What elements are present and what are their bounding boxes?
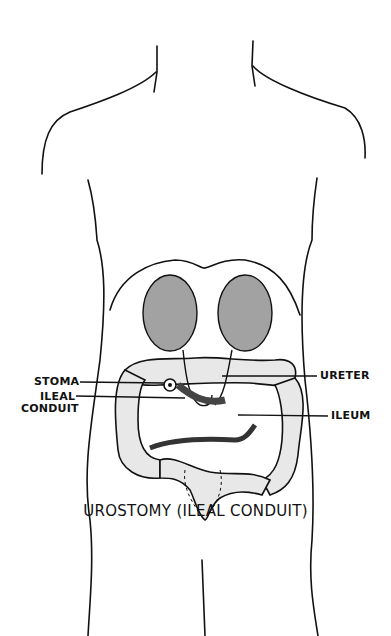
anatomy-illustration bbox=[0, 0, 391, 636]
transverse-colon bbox=[125, 358, 296, 386]
ileum-segment bbox=[150, 425, 255, 448]
descending-colon bbox=[262, 378, 303, 495]
label-ileal-conduit-line2: CONDUIT bbox=[21, 403, 79, 415]
shoulder-right-outline bbox=[253, 66, 365, 158]
label-ileum: ILEUM bbox=[331, 410, 371, 422]
kidney-left bbox=[143, 275, 197, 351]
neck-right-outline bbox=[252, 41, 255, 86]
ileal-conduit bbox=[178, 385, 225, 401]
label-stoma: STOMA bbox=[34, 376, 79, 388]
neck-left-outline bbox=[154, 46, 157, 92]
ascending-colon bbox=[115, 370, 160, 478]
torso-right-outline bbox=[302, 178, 318, 636]
leader-ileum bbox=[238, 415, 328, 416]
kidney-right bbox=[218, 275, 272, 351]
figure-caption: UROSTOMY (ILEAL CONDUIT) bbox=[0, 502, 391, 520]
label-ureter: URETER bbox=[320, 370, 370, 382]
midline bbox=[202, 560, 205, 636]
shoulder-left-outline bbox=[42, 72, 156, 174]
torso-left-outline bbox=[87, 180, 104, 636]
